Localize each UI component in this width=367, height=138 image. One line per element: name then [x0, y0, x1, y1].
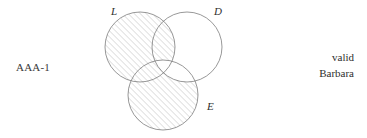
- validity-label: valid: [319, 50, 354, 66]
- venn-label-e: E: [206, 100, 214, 112]
- venn-diagram: L D E: [0, 0, 367, 138]
- venn-label-d: D: [213, 5, 222, 17]
- conclusion-block: valid Barbara: [319, 50, 354, 81]
- venn-shaded-area: [0, 0, 367, 138]
- venn-label-l: L: [110, 5, 117, 17]
- syllogism-name-label: Barbara: [319, 66, 354, 82]
- figure-canvas: AAA-1 L: [0, 0, 367, 138]
